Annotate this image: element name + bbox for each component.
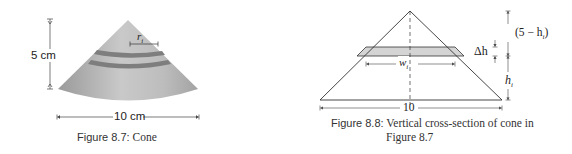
height-h-label: hi [504,73,514,89]
delta-h-dimension [493,40,498,63]
top-segment-label: (5 − hi) [515,26,548,41]
radius-subscript: i [141,37,143,45]
top-segment-text: (5 − h [515,26,543,38]
base-width-label: 10 cm [114,110,145,122]
strip-width-dimension [366,62,455,67]
caption-label: Figure 8.7: [77,131,130,143]
cross-section-base-label: 10 [403,101,415,113]
height-label: 5 cm [31,49,56,61]
caption-label: Figure 8.8: [331,117,384,129]
figure-8-8-caption-line2: Figure 8.7 [386,131,433,143]
width-subscript: i [406,63,408,71]
radius-label: ri [137,30,143,45]
strip-width-label: wi [398,56,409,71]
top-segment-close: ) [545,26,549,38]
cone-3d [58,20,198,101]
delta-h-label: Δh [474,44,488,59]
delta-h-text: Δh [474,44,488,58]
caption-text: Vertical cross-section of cone in [386,117,534,129]
height-subscript: i [511,81,513,89]
figure-8-7-caption: Figure 8.7: Cone [77,131,157,143]
caption-text: Cone [132,131,156,143]
figure-8-8-caption-line1: Figure 8.8: Vertical cross-section of co… [331,117,534,129]
